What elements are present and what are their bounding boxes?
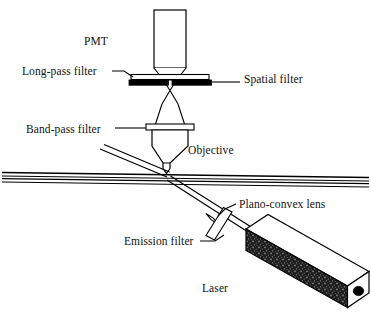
label-laser: Laser: [202, 283, 228, 295]
pmt-body: [154, 10, 186, 80]
optical-setup-figure: PMT Long-pass filter Spatial filter Band…: [0, 0, 371, 319]
leader-long-pass: [112, 71, 133, 77]
long-pass-filter: [131, 75, 209, 80]
label-pmt: PMT: [84, 36, 108, 48]
label-band-pass-filter: Band-pass filter: [26, 124, 101, 136]
laser-body: [246, 215, 369, 308]
band-pass-filter: [146, 124, 194, 130]
label-long-pass-filter: Long-pass filter: [22, 66, 97, 78]
label-spatial-filter: Spatial filter: [244, 74, 303, 86]
label-emission-filter: Emission filter: [124, 236, 194, 248]
optical-diagram: [0, 0, 371, 319]
spatial-filter: [129, 80, 212, 85]
label-objective: Objective: [188, 145, 234, 157]
emission-filter: [206, 208, 232, 241]
collection-cone-lower: [156, 91, 185, 125]
label-plano-convex-lens: Plano-convex lens: [239, 199, 325, 211]
